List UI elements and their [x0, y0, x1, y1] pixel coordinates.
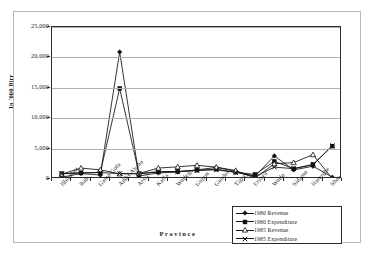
x-tick-label: Shoa [329, 174, 342, 187]
chart-figure: In '000 Birr 05,00010,00015,00020,00025,… [0, 0, 378, 258]
data-point-marker [242, 228, 247, 233]
x-tick-label: Tigray [233, 171, 249, 188]
legend-symbol [236, 209, 254, 217]
x-tick-label: Eritrea [252, 170, 269, 187]
legend-marker-icon [240, 226, 250, 234]
legend-label: 1985 Expenditure [254, 236, 297, 242]
legend-marker-icon [240, 235, 250, 243]
legend-label: 1985 Revenue [254, 227, 289, 233]
x-tick-label: Gonder [213, 169, 230, 187]
legend-marker-icon [240, 218, 250, 226]
legend-label: 1980 Expenditure [254, 219, 297, 225]
legend-label: 1980 Revenue [254, 210, 289, 216]
x-axis-title: Province [118, 230, 238, 237]
x-tick-label: Sidamo [291, 169, 309, 187]
x-tick-label: Illubabor [59, 166, 80, 188]
x-tick-label: Harerghe [310, 166, 331, 188]
chart-legend[interactable]: 1980 Revenue1980 Expenditure1985 Revenue… [232, 206, 342, 244]
legend-item[interactable]: 1980 Expenditure [236, 218, 338, 227]
data-point-marker [243, 237, 247, 241]
legend-marker-icon [240, 209, 250, 217]
data-point-marker [243, 220, 247, 224]
legend-item[interactable]: 1985 Expenditure [236, 235, 338, 244]
legend-symbol [236, 218, 254, 226]
x-tick-label: Kaffa [155, 172, 169, 187]
legend-item[interactable]: 1985 Revenue [236, 226, 338, 235]
x-tick-label: Gojam [194, 170, 210, 187]
legend-symbol [236, 235, 254, 243]
x-tick-label: Arssi [136, 173, 150, 187]
legend-item[interactable]: 1980 Revenue [236, 209, 338, 218]
x-tick-label: Wollega [175, 167, 194, 187]
x-tick-label: Wollo [271, 172, 286, 187]
legend-symbol [236, 226, 254, 234]
data-point-marker [243, 211, 248, 216]
x-tick-label: Bale [78, 174, 90, 187]
